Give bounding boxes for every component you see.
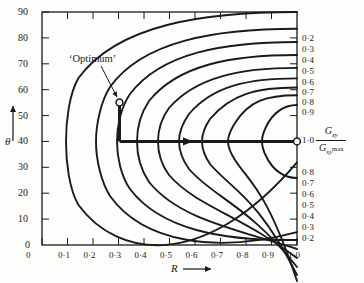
x-tick-label-0-3: 0·3	[109, 251, 121, 260]
optimum-point-marker	[116, 99, 123, 106]
optimum-path	[120, 106, 298, 141]
contour-label-lower-0-5: 0·5	[302, 201, 314, 210]
contour-label-lower-0-3: 0·3	[302, 223, 314, 232]
x-tick-label-0-4: 0·4	[135, 251, 147, 260]
y-tick-label-90: 90	[18, 7, 28, 17]
contour-label-upper-0-6: 0·6	[302, 78, 314, 87]
x-tick-label-1-0: 1·0	[288, 251, 300, 260]
plot-frame	[42, 12, 297, 245]
optimum-path-arrowhead	[183, 137, 193, 145]
right-axis-title: Gxy Gxymax	[316, 125, 346, 155]
contour-label-upper-0-4: 0·4	[302, 56, 314, 65]
y-tick-label-30: 30	[18, 162, 28, 172]
contour-label-upper-0-2: 0·2	[302, 34, 314, 43]
y-tick-label-50: 50	[18, 111, 28, 121]
x-tick-label-0-5: 0·5	[160, 251, 172, 260]
contour-label-lower-0-4: 0·4	[302, 212, 314, 221]
x-tick-label-0-6: 0·6	[186, 251, 198, 260]
contour-0-3	[96, 29, 297, 243]
contour-label-lower-0-2: 0·2	[302, 234, 314, 243]
y-tick-label-40: 40	[18, 136, 28, 146]
optimum-annotation-label: ‘Optimum’	[69, 54, 116, 65]
x-tick-label-0-2: 0·2	[84, 251, 96, 260]
contour-label-upper-0-5: 0·5	[302, 67, 314, 76]
contour-label-upper-0-7: 0·7	[302, 88, 314, 97]
x-axis-title: R	[171, 263, 178, 274]
x-tick-label-0: 0	[26, 251, 31, 260]
y-tick-label-0: 0	[25, 240, 30, 250]
y-axis-ticks-right	[290, 38, 297, 219]
right-axis-numerator: Gxy	[316, 125, 346, 140]
contour-label-upper-0-9: 0·9	[302, 108, 314, 117]
contour-label-lower-0-6: 0·6	[302, 190, 314, 199]
contour-label-lower-0-8: 0·8	[302, 168, 314, 177]
contour-label-1-0: 1·0	[302, 136, 314, 145]
x-tick-label-0-8: 0·8	[237, 251, 249, 260]
y-tick-label-60: 60	[18, 85, 28, 95]
y-tick-label-70: 70	[18, 59, 28, 69]
endpoint-marker	[294, 138, 301, 145]
y-tick-label-80: 80	[18, 33, 28, 43]
x-tick-label-0-7: 0·7	[211, 251, 223, 260]
contour-label-upper-0-3: 0·3	[302, 45, 314, 54]
contour-label-upper-0-8: 0·8	[302, 98, 314, 107]
right-axis-denominator: Gxymax	[316, 140, 346, 156]
x-tick-label-0-9: 0·9	[262, 251, 274, 260]
y-tick-label-20: 20	[18, 188, 28, 198]
y-tick-label-10: 10	[18, 214, 28, 224]
contour-label-lower-0-7: 0·7	[302, 179, 314, 188]
y-axis-title: θ	[5, 136, 10, 147]
y-axis-ticks	[42, 12, 49, 219]
x-tick-label-0-1: 0·1	[58, 251, 70, 260]
